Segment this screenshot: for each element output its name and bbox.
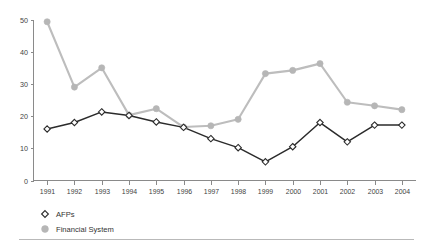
- x-tick-label: 1997: [204, 188, 219, 195]
- filled-circle-marker-icon: [42, 226, 49, 233]
- data-point-afps: [208, 135, 214, 141]
- data-point-financial-system: [208, 123, 214, 129]
- x-tick-label: 1994: [122, 188, 137, 195]
- data-point-financial-system: [371, 103, 377, 109]
- x-tick-label: 2000: [286, 188, 301, 195]
- data-point-afps: [399, 122, 405, 128]
- data-point-financial-system: [44, 19, 50, 25]
- line-chart: 01020304050 1991199219931994199519961997…: [0, 0, 431, 249]
- chart-canvas: 01020304050 1991199219931994199519961997…: [0, 0, 431, 249]
- data-point-afps: [99, 109, 105, 115]
- y-tick-label: 20: [20, 112, 28, 121]
- legend-label-financial-system: Financial System: [56, 225, 114, 234]
- data-point-financial-system: [235, 116, 241, 122]
- series-markers-afps: [44, 109, 405, 165]
- data-point-financial-system: [153, 106, 159, 112]
- data-point-financial-system: [399, 107, 405, 113]
- x-tick-label: 2002: [340, 188, 355, 195]
- data-point-financial-system: [344, 99, 350, 105]
- y-tick-label: 50: [20, 16, 28, 25]
- data-point-financial-system: [317, 61, 323, 67]
- x-tick-label: 2004: [395, 188, 410, 195]
- x-axis-tick-labels: 1991199219931994199519961997199819992000…: [40, 188, 410, 195]
- data-point-financial-system: [262, 71, 268, 77]
- polyline-afps: [47, 112, 402, 162]
- data-point-afps: [71, 119, 77, 125]
- x-tick-label: 2003: [368, 188, 383, 195]
- x-tick-label: 1992: [67, 188, 82, 195]
- y-tick-label: 10: [20, 144, 28, 153]
- y-axis-tick-labels: 01020304050: [20, 16, 28, 186]
- x-tick-label: 1991: [40, 188, 55, 195]
- y-tick-label: 40: [20, 48, 28, 57]
- y-tick-label: 0: [24, 177, 28, 186]
- x-tick-label: 1996: [177, 188, 192, 195]
- open-diamond-marker-icon: [42, 211, 49, 218]
- x-tick-label: 1999: [258, 188, 273, 195]
- y-tick-label: 30: [20, 80, 28, 89]
- x-tick-label: 1995: [149, 188, 164, 195]
- chart-legend: AFPsFinancial System: [42, 210, 114, 234]
- series-line-afps: [47, 112, 402, 162]
- data-point-financial-system: [290, 67, 296, 73]
- data-point-afps: [44, 126, 50, 132]
- x-axis-ticks: [48, 181, 403, 185]
- data-point-afps: [153, 119, 159, 125]
- x-tick-label: 1998: [231, 188, 246, 195]
- x-tick-label: 2001: [313, 188, 328, 195]
- legend-label-afps: AFPs: [56, 210, 75, 219]
- data-point-afps: [235, 144, 241, 150]
- data-point-financial-system: [71, 84, 77, 90]
- data-point-afps: [262, 159, 268, 165]
- data-point-financial-system: [99, 65, 105, 71]
- x-tick-label: 1993: [95, 188, 110, 195]
